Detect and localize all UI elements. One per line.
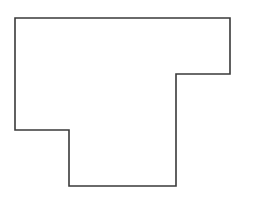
diagram-canvas — [0, 0, 254, 197]
t-shaped-polygon-outline — [15, 18, 230, 186]
polygon-diagram — [0, 0, 254, 197]
